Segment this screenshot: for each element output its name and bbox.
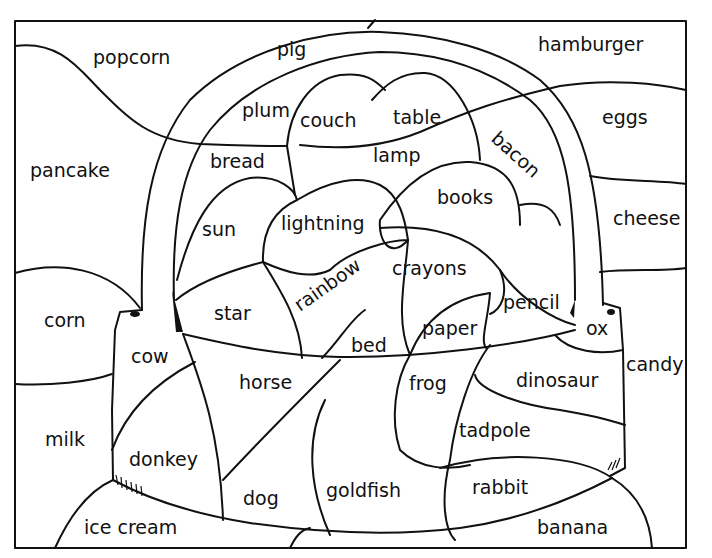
divider-frog-tadpole <box>445 345 490 540</box>
label-donkey: donkey <box>129 448 198 470</box>
hatch-right <box>608 458 620 470</box>
label-tadpole: tadpole <box>459 419 531 441</box>
divider-eggs-cheese <box>590 176 686 184</box>
label-rabbit: rabbit <box>472 476 528 498</box>
label-couch: couch <box>300 109 357 131</box>
label-cheese: cheese <box>613 207 680 229</box>
label-sun: sun <box>202 218 236 240</box>
label-pancake: pancake <box>30 159 110 181</box>
label-milk: milk <box>45 428 85 450</box>
label-candy: candy <box>626 353 683 375</box>
shape-plum-couch <box>287 74 385 195</box>
shape-star <box>176 262 263 300</box>
rim-right-shade <box>570 300 575 318</box>
label-bread: bread <box>210 150 265 172</box>
label-corn: corn <box>44 309 86 331</box>
divider-cow-donkey <box>112 362 195 450</box>
label-star: star <box>214 302 251 324</box>
divider-corn-milk <box>15 374 112 385</box>
label-ice-cream: ice cream <box>84 516 177 538</box>
label-hamburger: hamburger <box>538 33 644 55</box>
label-dog: dog <box>243 487 279 509</box>
divider-horse-left <box>183 334 223 520</box>
label-rainbow: rainbow <box>290 254 365 316</box>
label-horse: horse <box>239 371 292 393</box>
label-lightning: lightning <box>281 212 365 234</box>
label-popcorn: popcorn <box>93 46 170 68</box>
rim-right-hole <box>607 309 615 315</box>
label-bacon: bacon <box>487 127 545 182</box>
label-goldfish: goldfish <box>326 479 401 501</box>
shape-sun <box>177 178 297 280</box>
divider-pancake-corn <box>15 267 140 308</box>
rim-left-hole <box>130 311 140 317</box>
label-books: books <box>437 186 493 208</box>
label-crayons: crayons <box>392 257 467 279</box>
divider-goldfish-bottom <box>290 528 310 548</box>
label-pencil: pencil <box>503 291 560 313</box>
divider-goldfish-left <box>312 400 330 535</box>
divider-cheese-candy <box>600 268 686 272</box>
label-pig: pig <box>277 38 306 60</box>
label-banana: banana <box>537 516 608 538</box>
divider-tadpole-rabbit <box>440 457 612 478</box>
coloring-worksheet: popcorn pig hamburger plum couch table e… <box>0 0 712 558</box>
label-dinosaur: dinosaur <box>516 369 599 391</box>
label-cow: cow <box>131 345 169 367</box>
label-frog: frog <box>409 372 447 394</box>
label-table: table <box>393 106 441 128</box>
label-bed: bed <box>351 334 387 356</box>
label-plum: plum <box>242 99 290 121</box>
label-paper: paper <box>422 317 477 339</box>
label-lamp: lamp <box>373 144 421 166</box>
label-eggs: eggs <box>602 106 648 128</box>
handle-inner <box>174 52 575 300</box>
region-labels: popcorn pig hamburger plum couch table e… <box>30 33 683 538</box>
label-ox: ox <box>586 317 608 339</box>
banana-arc <box>612 478 652 548</box>
